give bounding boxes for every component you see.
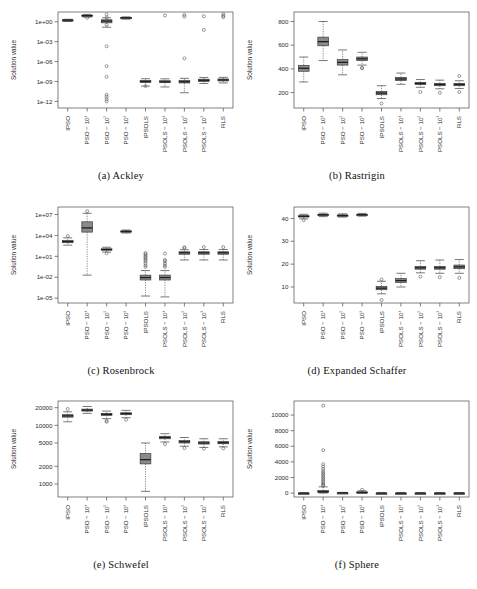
svg-text:IPSO: IPSO bbox=[64, 116, 71, 131]
caption-schwefel: (e) Schwefel bbox=[2, 559, 240, 570]
svg-text:IPSOLS: IPSOLS bbox=[142, 116, 149, 138]
svg-text:PSOLS − 10³: PSOLS − 10³ bbox=[200, 504, 207, 541]
svg-text:30: 30 bbox=[282, 237, 289, 244]
svg-text:0: 0 bbox=[285, 489, 289, 496]
chart-svg-expanded-schaffer: 10203040Solution valueIPSOPSO − 10¹PSO −… bbox=[238, 199, 476, 365]
chart-svg-rosenbrock: 1e+071e+041e+011e-021e-05Solution valueI… bbox=[2, 199, 240, 365]
svg-text:PSOLS − 10²: PSOLS − 10² bbox=[417, 504, 424, 541]
svg-text:1e+00: 1e+00 bbox=[35, 18, 53, 25]
svg-text:PSOLS − 10³: PSOLS − 10³ bbox=[436, 310, 443, 347]
svg-text:PSO − 10¹: PSO − 10¹ bbox=[319, 115, 326, 144]
svg-text:IPSO: IPSO bbox=[64, 505, 71, 520]
svg-text:RLS: RLS bbox=[455, 311, 462, 323]
panel-expanded-schaffer: 10203040Solution valueIPSOPSO − 10¹PSO −… bbox=[238, 199, 476, 395]
svg-text:PSO − 10²: PSO − 10² bbox=[339, 115, 346, 144]
svg-text:1e-05: 1e-05 bbox=[37, 294, 53, 301]
svg-text:Solution value: Solution value bbox=[10, 234, 17, 275]
panel-sphere: 0200040006000800010000Solution valueIPSO… bbox=[238, 393, 476, 589]
caption-rastrigin: (b) Rastrigin bbox=[238, 170, 476, 181]
svg-text:PSOLS − 10²: PSOLS − 10² bbox=[181, 115, 188, 152]
caption-ackley: (a) Ackley bbox=[2, 170, 240, 181]
svg-text:PSO − 10³: PSO − 10³ bbox=[122, 310, 129, 339]
svg-text:IPSO: IPSO bbox=[64, 311, 71, 326]
svg-text:PSO − 10²: PSO − 10² bbox=[103, 115, 110, 144]
svg-text:RLS: RLS bbox=[455, 116, 462, 128]
panel-rastrigin: 200400600800Solution valueIPSOPSO − 10¹P… bbox=[238, 4, 476, 200]
svg-text:6000: 6000 bbox=[275, 442, 289, 449]
svg-text:IPSOLS: IPSOLS bbox=[142, 505, 149, 527]
svg-text:Solution value: Solution value bbox=[246, 428, 253, 469]
svg-text:PSOLS − 10¹: PSOLS − 10¹ bbox=[161, 310, 168, 347]
plot-area-rastrigin: 200400600800Solution valueIPSOPSO − 10¹P… bbox=[238, 4, 476, 170]
svg-text:IPSOLS: IPSOLS bbox=[142, 311, 149, 333]
svg-text:PSOLS − 10²: PSOLS − 10² bbox=[417, 310, 424, 347]
svg-text:4000: 4000 bbox=[275, 458, 289, 465]
svg-text:IPSO: IPSO bbox=[300, 116, 307, 131]
svg-text:PSO − 10³: PSO − 10³ bbox=[358, 310, 365, 339]
chart-svg-ackley: 1e+001e-031e-061e-091e-12Solution valueI… bbox=[2, 4, 240, 170]
svg-text:20: 20 bbox=[282, 260, 289, 267]
svg-text:PSO − 10¹: PSO − 10¹ bbox=[83, 310, 90, 339]
svg-text:1e-12: 1e-12 bbox=[37, 98, 53, 105]
caption-expanded-schaffer: (d) Expanded Schaffer bbox=[238, 365, 476, 376]
svg-text:1e+07: 1e+07 bbox=[35, 211, 53, 218]
boxplot-figure-grid: 1e+001e-031e-061e-091e-12Solution valueI… bbox=[0, 0, 477, 589]
svg-text:600: 600 bbox=[278, 41, 289, 48]
svg-text:IPSO: IPSO bbox=[300, 505, 307, 520]
panel-ackley: 1e+001e-031e-061e-091e-12Solution valueI… bbox=[2, 4, 240, 200]
svg-text:1e-06: 1e-06 bbox=[37, 58, 53, 65]
svg-text:1e+04: 1e+04 bbox=[35, 232, 53, 239]
svg-text:PSOLS − 10¹: PSOLS − 10¹ bbox=[397, 310, 404, 347]
svg-text:IPSOLS: IPSOLS bbox=[378, 505, 385, 527]
chart-svg-sphere: 0200040006000800010000Solution valueIPSO… bbox=[238, 393, 476, 559]
svg-text:10000: 10000 bbox=[271, 411, 289, 418]
svg-text:IPSOLS: IPSOLS bbox=[378, 116, 385, 138]
plot-area-ackley: 1e+001e-031e-061e-091e-12Solution valueI… bbox=[2, 4, 240, 170]
svg-text:RLS: RLS bbox=[455, 505, 462, 517]
svg-text:PSOLS − 10¹: PSOLS − 10¹ bbox=[397, 115, 404, 152]
svg-text:PSOLS − 10²: PSOLS − 10² bbox=[181, 504, 188, 541]
svg-text:IPSO: IPSO bbox=[300, 311, 307, 326]
panel-schwefel: 1000200050001000020000Solution valueIPSO… bbox=[2, 393, 240, 589]
svg-text:PSO − 10³: PSO − 10³ bbox=[358, 504, 365, 533]
svg-text:PSO − 10¹: PSO − 10¹ bbox=[83, 504, 90, 533]
svg-text:20000: 20000 bbox=[35, 404, 53, 411]
chart-svg-rastrigin: 200400600800Solution valueIPSOPSO − 10¹P… bbox=[238, 4, 476, 170]
svg-text:PSO − 10²: PSO − 10² bbox=[339, 504, 346, 533]
svg-text:PSO − 10¹: PSO − 10¹ bbox=[319, 504, 326, 533]
svg-text:PSO − 10²: PSO − 10² bbox=[339, 310, 346, 339]
svg-text:200: 200 bbox=[278, 89, 289, 96]
svg-text:10000: 10000 bbox=[35, 422, 53, 429]
svg-text:PSOLS − 10³: PSOLS − 10³ bbox=[436, 115, 443, 152]
svg-text:PSOLS − 10²: PSOLS − 10² bbox=[417, 115, 424, 152]
svg-text:PSO − 10¹: PSO − 10¹ bbox=[319, 310, 326, 339]
plot-area-schwefel: 1000200050001000020000Solution valueIPSO… bbox=[2, 393, 240, 559]
svg-text:IPSOLS: IPSOLS bbox=[378, 311, 385, 333]
svg-text:PSOLS − 10³: PSOLS − 10³ bbox=[200, 310, 207, 347]
svg-text:RLS: RLS bbox=[219, 116, 226, 128]
svg-text:1e-09: 1e-09 bbox=[37, 78, 53, 85]
svg-text:PSO − 10³: PSO − 10³ bbox=[122, 504, 129, 533]
svg-text:1e+01: 1e+01 bbox=[35, 253, 53, 260]
svg-text:PSO − 10³: PSO − 10³ bbox=[122, 115, 129, 144]
svg-text:PSO − 10¹: PSO − 10¹ bbox=[83, 115, 90, 144]
svg-text:PSOLS − 10²: PSOLS − 10² bbox=[181, 310, 188, 347]
svg-text:PSOLS − 10³: PSOLS − 10³ bbox=[200, 115, 207, 152]
plot-area-rosenbrock: 1e+071e+041e+011e-021e-05Solution valueI… bbox=[2, 199, 240, 365]
svg-text:1000: 1000 bbox=[39, 480, 53, 487]
svg-text:RLS: RLS bbox=[219, 505, 226, 517]
svg-text:PSOLS − 10³: PSOLS − 10³ bbox=[436, 504, 443, 541]
svg-text:PSOLS − 10¹: PSOLS − 10¹ bbox=[161, 115, 168, 152]
svg-text:Solution value: Solution value bbox=[246, 39, 253, 80]
svg-text:PSOLS − 10¹: PSOLS − 10¹ bbox=[397, 504, 404, 541]
svg-text:8000: 8000 bbox=[275, 427, 289, 434]
svg-text:1e-02: 1e-02 bbox=[37, 273, 53, 280]
svg-text:2000: 2000 bbox=[275, 474, 289, 481]
caption-sphere: (f) Sphere bbox=[238, 559, 476, 570]
caption-rosenbrock: (c) Rosenbrock bbox=[2, 365, 240, 376]
chart-svg-schwefel: 1000200050001000020000Solution valueIPSO… bbox=[2, 393, 240, 559]
plot-area-expanded-schaffer: 10203040Solution valueIPSOPSO − 10¹PSO −… bbox=[238, 199, 476, 365]
svg-text:PSOLS − 10¹: PSOLS − 10¹ bbox=[161, 504, 168, 541]
svg-text:PSO − 10²: PSO − 10² bbox=[103, 310, 110, 339]
svg-text:PSO − 10²: PSO − 10² bbox=[103, 504, 110, 533]
